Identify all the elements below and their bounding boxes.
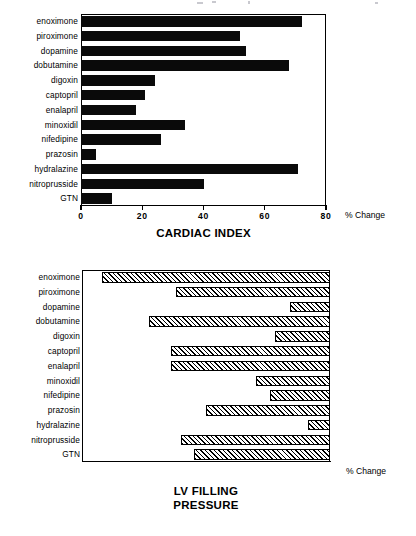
lv-filling-pressure-x-unit-label: % Change	[346, 466, 386, 476]
cardiac-index-title-text: CARDIAC INDEX	[81, 226, 326, 240]
lv-filling-pressure-title-text: PRESSURE	[82, 498, 330, 512]
x-axis-tick-label: 40	[198, 211, 209, 221]
chart-cardiac-index: enoximonepiroximonedopaminedobutaminedig…	[0, 0, 416, 248]
lv-filling-pressure-title: LV FILLINGPRESSURE	[82, 484, 330, 513]
x-axis-tick-label: 80	[321, 211, 332, 221]
x-axis-tick	[203, 205, 204, 210]
figure-page: enoximonepiroximonedopaminedobutaminedig…	[0, 0, 416, 536]
chart-lv-filling-pressure: enoximonepiroximonedopaminedobutaminedig…	[0, 262, 416, 536]
lv-filling-pressure-title-text: LV FILLING	[82, 484, 330, 498]
x-axis-tick	[142, 205, 143, 210]
x-axis-tick	[264, 205, 265, 210]
x-axis-tick-label: 0	[78, 211, 83, 221]
x-axis-tick	[325, 205, 326, 210]
cardiac-index-title: CARDIAC INDEX	[81, 226, 326, 240]
x-axis-tick	[80, 205, 81, 210]
x-axis-tick-label: 20	[137, 211, 148, 221]
x-axis-tick-label: 60	[259, 211, 270, 221]
cardiac-index-x-unit-label: % Change	[345, 210, 385, 220]
